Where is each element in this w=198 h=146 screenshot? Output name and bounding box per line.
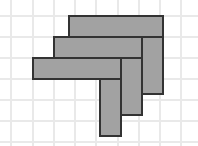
front-step-piece (33, 58, 121, 136)
figure-shapes (0, 0, 198, 146)
figure-canvas (0, 0, 198, 146)
